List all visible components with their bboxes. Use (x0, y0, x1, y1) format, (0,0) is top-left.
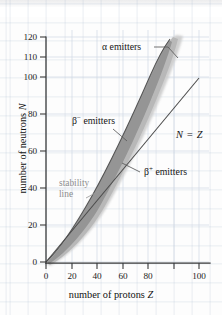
x-tick-label-60: 60 (113, 271, 133, 281)
stability-line (46, 39, 170, 262)
y-tick-marks (40, 37, 46, 262)
x-tick-label-40: 40 (87, 271, 107, 281)
annotation-beta-plus-emitters: β+ emitters (144, 166, 187, 177)
y-axis-title-text: number of neutrons (17, 110, 28, 193)
x-tick-label-0: 0 (36, 271, 56, 281)
x-axis-title: number of protons Z (0, 289, 222, 300)
stability-band-core (47, 40, 172, 264)
x-tick-label-20: 20 (62, 271, 82, 281)
n-equals-z-label: N = Z (176, 129, 203, 140)
x-tick-label-80: 80 (138, 271, 158, 281)
nuclide-stability-chart: 120 110 100 80 60 40 20 0 0 20 40 60 80 … (0, 0, 222, 315)
annotation-stability-line: stabilityline (59, 178, 89, 199)
annotation-beta-minus-emitters: β− emitters (72, 115, 115, 126)
stability-label-line1: stability (59, 178, 89, 189)
x-axis-title-symbol: Z (147, 289, 153, 300)
x-tick-marks (46, 263, 199, 269)
x-axis-title-text: number of protons (69, 289, 148, 300)
beta-minus-label-text: emitters (81, 115, 115, 126)
x-tick-label-100: 100 (189, 271, 209, 281)
beta-plus-label-text: emitters (153, 166, 187, 177)
y-axis-title-symbol: N (17, 103, 28, 110)
annotation-alpha-emitters: α emitters (102, 41, 141, 52)
y-axis-title: number of neutrons N (17, 39, 28, 259)
annotation-n-equals-z: N = Z (176, 129, 203, 140)
alpha-label-text: emitters (107, 41, 141, 52)
y-tick-label-0: 0 (12, 257, 37, 267)
stability-label-line2: line (59, 189, 89, 200)
